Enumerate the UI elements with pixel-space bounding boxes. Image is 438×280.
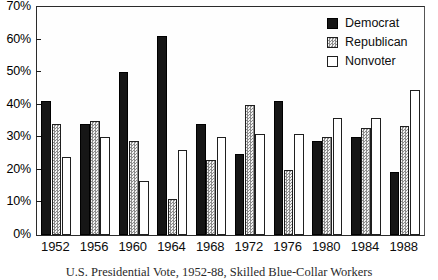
- y-tick-mark: [36, 71, 41, 72]
- bar-republican-1964: [168, 199, 178, 235]
- x-tick-label-1972: 1972: [230, 240, 269, 253]
- bar-democrat-1980: [312, 141, 322, 235]
- bar-nonvoter-1984: [371, 118, 381, 235]
- bar-nonvoter-1976: [294, 134, 304, 235]
- bar-republican-1984: [361, 128, 371, 235]
- bar-democrat-1964: [157, 36, 167, 235]
- x-tick-label-1980: 1980: [307, 240, 346, 253]
- x-axis: 1952195619601964196819721976198019841988: [36, 240, 425, 258]
- y-tick-label: 60%: [7, 33, 31, 46]
- x-tick-label-1952: 1952: [36, 240, 75, 253]
- bar-nonvoter-1988: [410, 90, 420, 235]
- bar-group-1952: [41, 7, 71, 235]
- swatch-nonvoter-icon: [327, 56, 338, 67]
- y-axis: 0%10%20%30%40%50%60%70%: [0, 0, 33, 242]
- swatch-republican-icon: [327, 37, 338, 48]
- x-tick-label-1988: 1988: [384, 240, 423, 253]
- x-tick-label-1956: 1956: [75, 240, 114, 253]
- chart-legend: DemocratRepublicanNonvoter: [327, 14, 431, 71]
- legend-label: Democrat: [345, 17, 399, 30]
- bar-democrat-1968: [196, 124, 206, 235]
- y-tick-mark: [36, 39, 41, 40]
- legend-item-democrat[interactable]: Democrat: [327, 14, 431, 32]
- y-tick-label: 40%: [7, 98, 31, 111]
- bar-nonvoter-1968: [217, 137, 227, 235]
- bar-democrat-1956: [80, 124, 90, 235]
- y-tick-label: 0%: [13, 228, 31, 241]
- legend-label: Republican: [345, 36, 408, 49]
- bar-nonvoter-1972: [255, 134, 265, 235]
- bar-republican-1972: [245, 105, 255, 235]
- bar-republican-1968: [206, 160, 216, 235]
- y-tick-label: 70%: [7, 0, 31, 13]
- x-tick-label-1976: 1976: [268, 240, 307, 253]
- bar-republican-1952: [52, 124, 62, 235]
- bar-democrat-1960: [119, 72, 129, 235]
- x-tick-label-1964: 1964: [152, 240, 191, 253]
- bar-democrat-1984: [351, 137, 361, 235]
- y-tick-mark: [36, 104, 41, 105]
- bar-republican-1960: [129, 141, 139, 235]
- bar-nonvoter-1980: [333, 118, 343, 235]
- chart-caption: U.S. Presidential Vote, 1952-88, Skilled…: [0, 265, 438, 280]
- bar-group-1972: [235, 7, 265, 235]
- legend-item-nonvoter[interactable]: Nonvoter: [327, 52, 431, 70]
- y-tick-label: 10%: [7, 195, 31, 208]
- x-tick-label-1960: 1960: [113, 240, 152, 253]
- bar-group-1964: [157, 7, 187, 235]
- y-tick-mark: [36, 136, 41, 137]
- bar-group-1960: [119, 7, 149, 235]
- legend-label: Nonvoter: [345, 55, 396, 68]
- bar-republican-1988: [400, 126, 410, 235]
- bar-republican-1980: [322, 137, 332, 235]
- swatch-democrat-icon: [327, 18, 338, 29]
- bar-group-1976: [274, 7, 304, 235]
- y-tick-label: 30%: [7, 130, 31, 143]
- bar-nonvoter-1952: [62, 157, 72, 235]
- bar-nonvoter-1960: [139, 181, 149, 235]
- bar-democrat-1972: [235, 154, 245, 235]
- bar-republican-1976: [284, 170, 294, 235]
- bar-democrat-1952: [41, 101, 51, 235]
- bar-democrat-1988: [390, 172, 400, 236]
- bar-republican-1956: [90, 121, 100, 235]
- x-tick-label-1984: 1984: [346, 240, 385, 253]
- bar-nonvoter-1964: [178, 150, 188, 235]
- bar-group-1968: [196, 7, 226, 235]
- y-tick-label: 20%: [7, 163, 31, 176]
- bar-nonvoter-1956: [100, 137, 110, 235]
- bar-democrat-1976: [274, 101, 284, 235]
- y-tick-mark: [36, 169, 41, 170]
- y-tick-mark: [36, 201, 41, 202]
- y-tick-label: 50%: [7, 65, 31, 78]
- legend-item-republican[interactable]: Republican: [327, 33, 431, 51]
- bar-group-1956: [80, 7, 110, 235]
- x-tick-label-1968: 1968: [191, 240, 230, 253]
